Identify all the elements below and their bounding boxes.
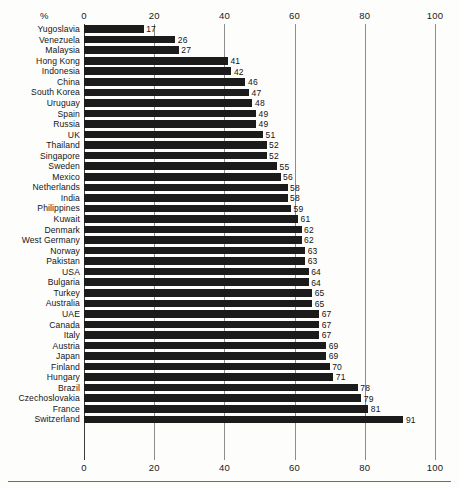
- category-label-russia: Russia: [53, 119, 80, 129]
- category-label-france: France: [53, 404, 80, 414]
- bar-austria: [84, 342, 326, 350]
- bar-thailand: [84, 141, 267, 149]
- bar-malaysia: [84, 46, 179, 54]
- bar-value-south-korea: 47: [251, 88, 261, 98]
- bar-value-kuwait: 61: [301, 214, 311, 224]
- bar-south-korea: [84, 89, 249, 97]
- bar-row: Norway63: [0, 245, 459, 256]
- bar-row: Switzerland91: [0, 414, 459, 425]
- bar-australia: [84, 300, 312, 308]
- category-label-usa: USA: [62, 267, 80, 277]
- bar-value-uk: 51: [266, 130, 276, 140]
- bottom-tick-60: 60: [289, 462, 300, 473]
- bar-turkey: [84, 289, 312, 297]
- category-label-singapore: Singapore: [40, 151, 80, 161]
- bar-france: [84, 405, 368, 413]
- bar-row: Yugoslavia17: [0, 24, 459, 35]
- category-label-kuwait: Kuwait: [54, 214, 80, 224]
- bar-czechoslovakia: [84, 394, 361, 402]
- bar-value-venezuela: 26: [178, 35, 188, 45]
- bar-row: Australia65: [0, 298, 459, 309]
- bar-hungary: [84, 373, 333, 381]
- bar-japan: [84, 352, 326, 360]
- category-label-switzerland: Switzerland: [34, 414, 80, 424]
- bar-value-yugoslavia: 17: [146, 24, 156, 34]
- bar-value-thailand: 52: [269, 140, 279, 150]
- category-label-philippines: Philippines: [37, 203, 80, 213]
- category-label-uae: UAE: [62, 309, 80, 319]
- bar-venezuela: [84, 36, 175, 44]
- bar-value-france: 81: [371, 404, 381, 414]
- category-label-netherlands: Netherlands: [33, 182, 80, 192]
- category-label-mexico: Mexico: [52, 172, 80, 182]
- bar-russia: [84, 120, 256, 128]
- chart-figure: % 020406080100 020406080100 Yugoslavia17…: [0, 0, 459, 488]
- category-label-venezuela: Venezuela: [39, 35, 80, 45]
- bar-value-hungary: 71: [336, 372, 346, 382]
- bar-row: Singapore52: [0, 151, 459, 162]
- bar-value-turkey: 65: [315, 288, 325, 298]
- category-label-australia: Australia: [46, 298, 80, 308]
- bar-netherlands: [84, 184, 288, 192]
- top-tick-100: 100: [427, 10, 443, 21]
- bar-hong-kong: [84, 57, 228, 65]
- bar-value-china: 46: [248, 77, 258, 87]
- bar-india: [84, 194, 288, 202]
- bottom-tick-100: 100: [427, 462, 443, 473]
- bar-rows: Yugoslavia17Venezuela26Malaysia27Hong Ko…: [0, 24, 459, 425]
- bar-italy: [84, 331, 319, 339]
- category-label-spain: Spain: [58, 109, 80, 119]
- bar-row: Netherlands58: [0, 182, 459, 193]
- bar-value-brazil: 78: [360, 383, 370, 393]
- category-label-west-germany: West Germany: [22, 235, 80, 245]
- category-label-brazil: Brazil: [58, 383, 80, 393]
- bar-row: Uruguay48: [0, 98, 459, 109]
- category-label-china: China: [57, 77, 80, 87]
- bar-finland: [84, 363, 330, 371]
- bar-pakistan: [84, 257, 305, 265]
- bar-usa: [84, 268, 309, 276]
- bar-row: Brazil78: [0, 383, 459, 394]
- bar-uk: [84, 131, 263, 139]
- bottom-tick-80: 80: [359, 462, 370, 473]
- bar-uruguay: [84, 99, 252, 107]
- category-label-hungary: Hungary: [47, 372, 80, 382]
- bar-philippines: [84, 205, 291, 213]
- bar-row: Philippines59: [0, 203, 459, 214]
- bar-value-india: 58: [290, 193, 300, 203]
- category-label-thailand: Thailand: [46, 140, 80, 150]
- bar-canada: [84, 321, 319, 329]
- bar-value-austria: 69: [329, 341, 339, 351]
- bar-value-sweden: 55: [280, 162, 290, 172]
- bar-value-finland: 70: [332, 362, 342, 372]
- category-label-pakistan: Pakistan: [46, 256, 80, 266]
- bar-row: South Korea47: [0, 87, 459, 98]
- bar-row: Canada67: [0, 319, 459, 330]
- bar-row: Thailand52: [0, 140, 459, 151]
- bar-row: Denmark62: [0, 224, 459, 235]
- bar-value-hong-kong: 41: [230, 56, 240, 66]
- category-label-sweden: Sweden: [48, 161, 80, 171]
- top-tick-20: 20: [149, 10, 160, 21]
- bar-value-canada: 67: [322, 320, 332, 330]
- bar-row: USA64: [0, 267, 459, 278]
- category-label-norway: Norway: [50, 246, 80, 256]
- bar-value-spain: 49: [258, 109, 268, 119]
- category-label-italy: Italy: [64, 330, 80, 340]
- category-label-denmark: Denmark: [44, 225, 80, 235]
- bar-row: Hong Kong41: [0, 56, 459, 67]
- bar-value-uruguay: 48: [255, 98, 265, 108]
- bar-row: China46: [0, 77, 459, 88]
- bar-value-mexico: 56: [283, 172, 293, 182]
- top-tick-60: 60: [289, 10, 300, 21]
- bar-row: Indonesia42: [0, 66, 459, 77]
- bar-row: West Germany62: [0, 235, 459, 246]
- bar-value-denmark: 62: [304, 225, 314, 235]
- category-label-bulgaria: Bulgaria: [48, 277, 80, 287]
- bar-value-netherlands: 58: [290, 183, 300, 193]
- bar-value-norway: 63: [308, 246, 318, 256]
- bar-row: India58: [0, 193, 459, 204]
- category-label-hong-kong: Hong Kong: [36, 56, 80, 66]
- bar-row: Czechoslovakia79: [0, 393, 459, 404]
- top-tick-0: 0: [81, 10, 86, 21]
